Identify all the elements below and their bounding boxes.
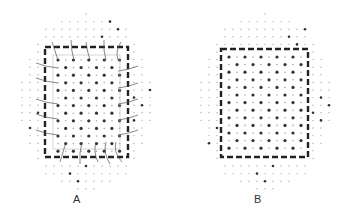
outer-dot bbox=[21, 120, 22, 121]
outer-dot bbox=[328, 104, 331, 107]
outer-dot bbox=[109, 173, 110, 174]
outer-dot bbox=[328, 89, 329, 90]
outer-dot bbox=[93, 36, 94, 37]
inner-dot bbox=[96, 120, 98, 122]
inner-dot bbox=[260, 94, 262, 96]
inner-dot bbox=[299, 109, 302, 112]
outer-dot bbox=[61, 21, 62, 22]
inner-dot bbox=[299, 78, 302, 81]
inner-dot bbox=[243, 147, 246, 150]
inner-dot bbox=[64, 81, 67, 84]
inner-dot bbox=[268, 132, 270, 134]
inner-dot bbox=[227, 55, 230, 58]
inner-dot bbox=[73, 82, 75, 84]
outer-dot bbox=[256, 181, 257, 182]
outer-dot bbox=[125, 173, 126, 174]
outer-dot bbox=[272, 181, 273, 182]
outer-dot bbox=[208, 89, 209, 90]
outer-dot bbox=[200, 105, 201, 106]
outer-dot bbox=[61, 29, 62, 30]
outer-dot bbox=[320, 74, 321, 75]
outer-dot bbox=[69, 21, 70, 22]
outer-dot bbox=[133, 119, 136, 122]
connector-line bbox=[36, 78, 58, 83]
inner-dot bbox=[292, 140, 294, 142]
inner-dot bbox=[292, 109, 294, 111]
outer-dot bbox=[141, 89, 142, 90]
outer-dot bbox=[133, 89, 134, 90]
inner-dot bbox=[87, 150, 90, 153]
outer-dot bbox=[133, 105, 134, 106]
connector-line bbox=[36, 130, 58, 135]
outer-dot bbox=[216, 105, 217, 106]
outer-dot bbox=[280, 173, 281, 174]
inner-dot bbox=[96, 90, 98, 92]
inner-dot bbox=[243, 101, 246, 104]
inner-dot bbox=[103, 119, 106, 122]
inner-dot bbox=[267, 139, 270, 142]
inner-dot bbox=[299, 63, 302, 66]
inner-dot bbox=[110, 112, 113, 115]
outer-dot bbox=[77, 36, 78, 37]
outer-dot bbox=[141, 112, 142, 113]
outer-dot bbox=[29, 105, 30, 106]
outer-dot bbox=[208, 112, 209, 113]
inner-dot bbox=[110, 81, 113, 84]
inner-dot bbox=[275, 86, 278, 89]
inner-dot bbox=[259, 116, 262, 119]
outer-dot bbox=[69, 29, 70, 30]
outer-dot bbox=[77, 165, 78, 166]
inner-dot bbox=[267, 63, 270, 66]
outer-dot bbox=[29, 120, 30, 121]
inner-dot bbox=[268, 147, 270, 149]
inner-dot bbox=[243, 71, 246, 74]
inner-dot bbox=[103, 89, 106, 92]
outer-dot bbox=[133, 127, 134, 128]
inner-dot bbox=[65, 150, 67, 152]
outer-dot bbox=[93, 188, 94, 189]
inner-dot bbox=[283, 109, 286, 112]
outer-dot bbox=[216, 143, 217, 144]
outer-dot bbox=[125, 165, 126, 166]
outer-dot bbox=[224, 29, 225, 30]
outer-dot bbox=[224, 165, 225, 166]
inner-dot bbox=[110, 66, 113, 69]
inner-dot bbox=[275, 116, 278, 119]
outer-dot bbox=[133, 150, 134, 151]
outer-dot bbox=[312, 127, 313, 128]
inner-dot bbox=[252, 56, 254, 58]
inner-dot bbox=[111, 59, 113, 61]
inner-dot bbox=[284, 117, 286, 119]
inner-dot bbox=[80, 81, 83, 84]
outer-dot bbox=[85, 181, 86, 182]
outer-dot bbox=[141, 104, 144, 107]
outer-dot bbox=[93, 173, 94, 174]
inner-dot bbox=[283, 139, 286, 142]
outer-dot bbox=[77, 180, 80, 183]
inner-dot bbox=[292, 79, 294, 81]
inner-dot bbox=[260, 140, 262, 142]
inner-dot bbox=[236, 71, 238, 73]
inner-dot bbox=[103, 143, 105, 145]
outer-dot bbox=[328, 82, 329, 83]
inner-dot bbox=[275, 147, 278, 150]
outer-dot bbox=[280, 21, 281, 22]
outer-dot bbox=[149, 89, 152, 92]
outer-dot bbox=[125, 29, 126, 30]
inner-dot bbox=[72, 119, 75, 122]
outer-dot bbox=[77, 29, 78, 30]
outer-dot bbox=[133, 82, 134, 83]
inner-dot bbox=[251, 109, 254, 112]
inner-dot bbox=[259, 131, 262, 134]
inner-dot bbox=[87, 134, 90, 137]
inner-dot bbox=[244, 140, 246, 142]
inner-dot bbox=[283, 78, 286, 81]
outer-dot bbox=[320, 89, 321, 90]
outer-dot bbox=[45, 165, 46, 166]
inner-dot bbox=[227, 86, 230, 89]
outer-dot bbox=[312, 150, 313, 151]
outer-dot bbox=[296, 43, 299, 46]
outer-dot bbox=[256, 29, 257, 30]
inner-dot bbox=[283, 63, 286, 66]
outer-dot bbox=[296, 29, 297, 30]
